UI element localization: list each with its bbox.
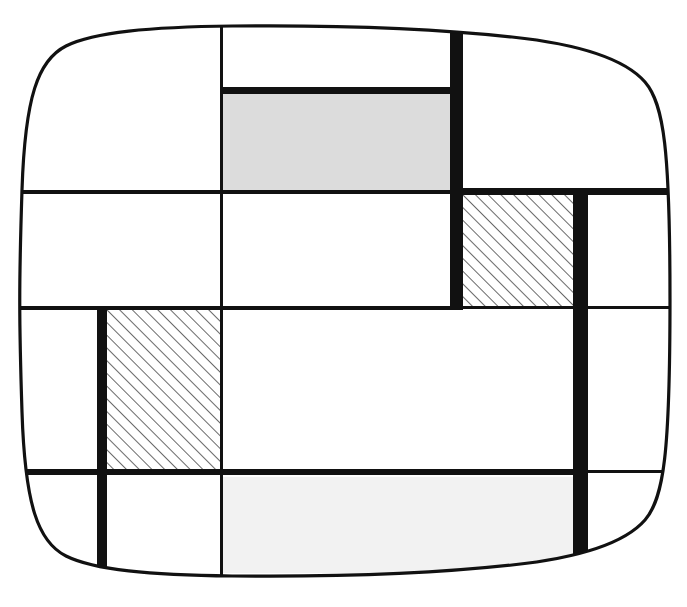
- fill-hatched-panel-left: [107, 308, 222, 472]
- fill-gray-panel-lower: [222, 477, 574, 573]
- rule-mid-upper: [16, 190, 456, 194]
- rule-left-thin-upper: [220, 20, 223, 580]
- mondrian-artboard: [0, 0, 687, 607]
- rule-mid-lower: [14, 306, 456, 310]
- bar-left-thick: [97, 306, 107, 582]
- fill-gray-panel-upper: [222, 91, 450, 192]
- rule-mid-upper-right: [456, 188, 672, 195]
- composition-canvas: [0, 0, 687, 607]
- bar-center-thick: [450, 20, 463, 310]
- bar-right-thick: [573, 188, 588, 582]
- rule-mid-lower-right: [456, 306, 676, 309]
- fill-hatched-panel-right: [462, 192, 573, 308]
- rule-upper-gray-top: [222, 87, 456, 94]
